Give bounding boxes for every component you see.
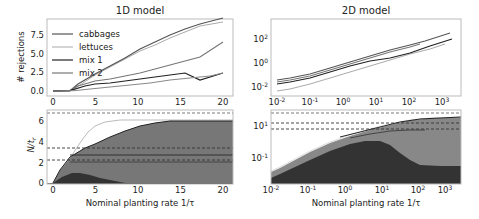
x-tick: 10-1 [300, 184, 317, 195]
x-tick: 0 [50, 185, 55, 195]
x-tick: 101 [375, 184, 390, 195]
x-tick: 10-2 [269, 96, 286, 107]
legend-label: cabbages [79, 29, 121, 39]
x-tick: 0 [50, 97, 55, 107]
x-ticks: 10-2 10-1 100 101 102 103 [263, 184, 453, 195]
series-line-cabbages [277, 33, 450, 80]
y-tick: 0.0 [30, 86, 44, 96]
x-tick: 10-1 [302, 96, 319, 107]
x-tick: 15 [175, 97, 186, 107]
panel-2d-occupancy: 101 10-1 10-2 10-1 100 101 102 103 Nomin… [251, 110, 461, 208]
x-tick: 100 [338, 184, 353, 195]
legend-label: mix 1 [79, 55, 103, 65]
y-axis-label: # rejections [16, 31, 26, 83]
x-tick: 5 [93, 97, 98, 107]
y-tick: 7.5 [30, 30, 44, 40]
x-axis-label: Nominal planting rate 1/τ [86, 198, 195, 208]
x-tick: 10 [133, 185, 144, 195]
x-ticks: 10-2 10-1 100 101 102 103 [269, 96, 450, 107]
x-tick: 10-2 [263, 184, 280, 195]
y-tick: 10-1 [251, 152, 268, 163]
panel-1d-occupancy: 0 2 4 6 0 5 10 15 20 N/tr Nominal planti… [26, 110, 233, 208]
x-tick: 5 [93, 185, 98, 195]
y-tick: 100 [253, 57, 268, 68]
x-tick: 101 [369, 96, 384, 107]
x-tick: 103 [435, 96, 450, 107]
x-tick: 10 [133, 97, 144, 107]
y-tick: 2.5 [30, 67, 44, 77]
x-tick: 20 [218, 185, 229, 195]
legend-label: mix 2 [79, 68, 103, 78]
y-tick: 2 [39, 158, 44, 168]
x-tick: 102 [402, 96, 417, 107]
y-tick: 10-2 [251, 81, 268, 92]
panel-1d-rejections: 1D model 0.0 2.5 5.0 7.5 0 5 10 15 20 # … [16, 5, 233, 107]
panel-title-2d: 2D model [342, 5, 390, 16]
panel-title-1d: 1D model [116, 5, 164, 16]
x-tick: 100 [336, 96, 351, 107]
y-tick: 101 [253, 120, 268, 131]
x-tick: 15 [175, 185, 186, 195]
y-axis-label: N/tr [26, 137, 37, 153]
y-tick: 4 [39, 137, 44, 147]
legend-label: lettuces [79, 42, 114, 52]
y-tick: 0 [39, 178, 44, 188]
x-tick: 20 [218, 97, 229, 107]
series-line-lettuces [277, 44, 445, 91]
x-axis-label: Nominal planting rate 1/τ [312, 198, 421, 208]
y-tick: 102 [253, 33, 268, 44]
panel-2d-rejections: 2D model 102 100 10-2 10-2 10-1 100 101 … [251, 5, 461, 107]
y-tick: 5.0 [30, 49, 44, 59]
x-tick: 102 [411, 184, 426, 195]
y-tick: 6 [39, 116, 44, 126]
legend: cabbages lettuces mix 1 mix 2 [52, 29, 121, 78]
figure: 1D model 0.0 2.5 5.0 7.5 0 5 10 15 20 # … [0, 0, 479, 219]
x-tick: 103 [438, 184, 453, 195]
